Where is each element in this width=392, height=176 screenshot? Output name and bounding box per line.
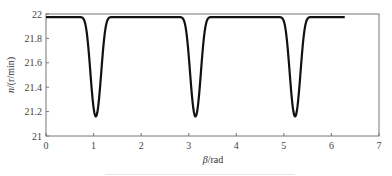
x-tick-label: 1	[91, 140, 96, 151]
plot-area-border	[46, 14, 379, 136]
x-tick-label: 2	[139, 140, 144, 151]
y-axis-label-unit: /(r/min)	[5, 57, 17, 88]
y-tick-label: 21.8	[25, 33, 43, 44]
data-series-line	[46, 17, 345, 116]
line-chart: 01234567 2121.221.421.621.822 β/rad n/(r…	[0, 0, 392, 176]
x-axis-label-unit: /rad	[208, 154, 224, 165]
x-tick-label: 5	[281, 140, 286, 151]
y-tick-label: 21.2	[25, 106, 43, 117]
x-axis-label: β/rad	[202, 154, 224, 165]
plot-frame	[46, 14, 379, 136]
x-tick-label: 4	[234, 140, 239, 151]
x-tick-label: 7	[377, 140, 382, 151]
y-axis-label: n/(r/min)	[5, 57, 17, 93]
x-tick-label: 6	[329, 140, 334, 151]
x-tick-label: 3	[186, 140, 191, 151]
y-tick-label: 21.6	[25, 57, 43, 68]
y-tick-label: 21.4	[25, 82, 43, 93]
y-tick-label: 21	[32, 131, 42, 142]
y-tick-label: 22	[32, 9, 42, 20]
y-axis-ticks: 2121.221.421.621.822	[25, 9, 50, 142]
bottom-divider	[105, 174, 295, 175]
x-tick-label: 0	[44, 140, 49, 151]
